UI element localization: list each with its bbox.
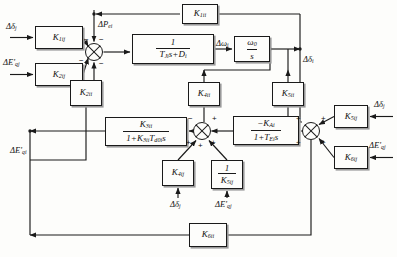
gain-k4ij[interactable]: K4ij xyxy=(162,160,194,186)
inertia-fraction: 1 TJis+Di xyxy=(156,37,189,60)
block-diagram-canvas: K1ij K2ij K2ii 1 TJis+Di ω0 s K1ii K4ii … xyxy=(0,0,397,257)
summing-junction-excitation[interactable] xyxy=(302,122,320,140)
sign-minus-sum1-a: − xyxy=(84,36,89,44)
label-delta-eq-i: ΔE'qi xyxy=(10,146,27,156)
gain-k6ij-label: K6ij xyxy=(345,153,357,162)
field-circuit-fraction: K3ii 1+K3iiTd0is xyxy=(123,119,168,143)
gain-k6ii-label: K6ii xyxy=(202,230,214,239)
sign-plus-sum3-tl: + xyxy=(296,115,301,123)
gain-k2ii-label: K2ii xyxy=(80,88,92,97)
label-input-delta-eq-j-3: ΔE'qj xyxy=(369,141,386,151)
inv-k5ij-fraction: 1 K5ij xyxy=(218,163,236,186)
label-delta-pei: ΔPei xyxy=(98,20,112,30)
sign-plus-sum2-right: + xyxy=(212,115,217,123)
sign-plus-sum3-bl: + xyxy=(296,139,301,147)
label-input-delta-eq-j: ΔE'qj xyxy=(3,58,20,68)
field-circuit-block[interactable]: K3ii 1+K3iiTd0is xyxy=(105,117,187,146)
gain-k4ii[interactable]: K4ii xyxy=(188,82,220,106)
gain-k2ij-label: K2ij xyxy=(53,70,65,79)
sign-minus-sum1-c: − xyxy=(79,57,84,65)
sign-plus-sum3-br: + xyxy=(321,139,326,147)
gain-k1ij[interactable]: K1ij xyxy=(35,26,83,49)
exciter-block[interactable]: −KAi 1+TEis xyxy=(233,116,299,145)
gain-k5ii-label: K5ii xyxy=(282,89,294,98)
exciter-fraction: −KAi 1+TEis xyxy=(251,118,282,142)
sign-minus-sum2-top: − xyxy=(188,115,193,123)
integrator-fraction: ω0 s xyxy=(244,37,259,60)
inertia-transfer-block[interactable]: 1 TJis+Di xyxy=(132,34,214,64)
sign-minus-sum1-b: − xyxy=(99,36,104,44)
gain-k1ii-label: K1ii xyxy=(194,9,206,18)
sign-plus-sum2-bl: + xyxy=(186,139,191,147)
summing-junction-field[interactable] xyxy=(193,122,211,140)
label-delta-omega-i: Δωi xyxy=(216,39,229,49)
sign-plus-sum2-b: + xyxy=(198,142,203,150)
gain-k2ii[interactable]: K2ii xyxy=(70,80,102,106)
sign-minus-sum1-d: − xyxy=(99,60,104,68)
label-delta-delta-i: Δδi xyxy=(303,55,314,65)
integrator-block[interactable]: ω0 s xyxy=(234,36,270,62)
gain-k1ii[interactable]: K1ii xyxy=(182,4,218,24)
gain-k1ij-label: K1ij xyxy=(53,33,65,42)
gain-k6ii[interactable]: K6ii xyxy=(189,223,227,247)
label-input-delta-delta-j-3: Δδj xyxy=(374,100,385,110)
gain-k4ii-label: K4ii xyxy=(198,89,210,98)
label-input-delta-delta-j: Δδj xyxy=(6,22,17,32)
gain-k5ij[interactable]: K5ij xyxy=(334,105,368,128)
gain-k5ij-label: K5ij xyxy=(345,112,357,121)
sign-plus-sum2-br: + xyxy=(211,139,216,147)
gain-k5ii[interactable]: K5ii xyxy=(272,82,304,106)
gain-inv-k5ij[interactable]: 1 K5ij xyxy=(211,160,243,189)
label-input-delta-eq-j-2: ΔE'qj xyxy=(215,200,232,210)
gain-k4ij-label: K4ij xyxy=(172,168,184,177)
gain-k6ij[interactable]: K6ij xyxy=(334,146,368,169)
label-input-delta-delta-j-2: Δδj xyxy=(170,200,181,210)
sign-plus-sum3-tr: + xyxy=(321,115,326,123)
